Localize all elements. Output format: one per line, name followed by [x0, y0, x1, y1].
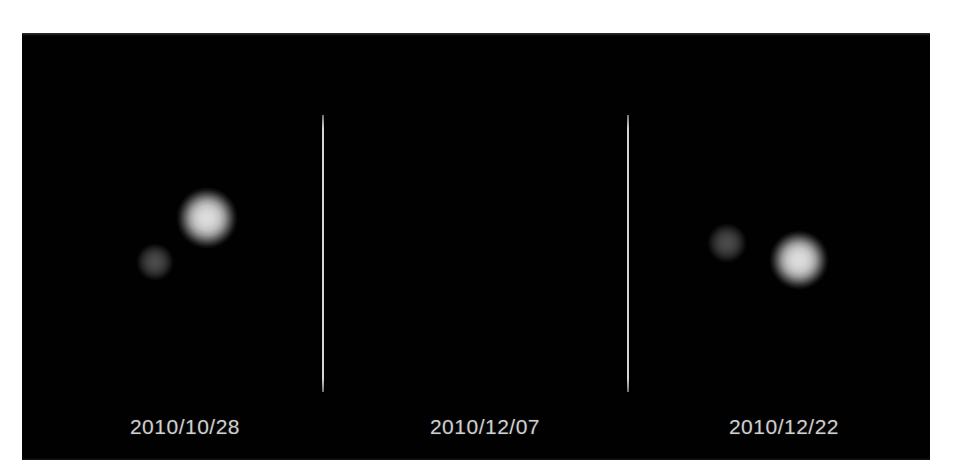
sub-panel-2: 2010/12/07 [324, 33, 627, 460]
charon-blob-panel-1 [136, 243, 174, 281]
panel-2-date-label: 2010/12/07 [335, 415, 635, 439]
figure-root: 2010/10/28 2010/12/07 2010/12/22 [0, 0, 955, 476]
panel-divider-2 [627, 115, 629, 392]
panel-3-date-label: 2010/12/22 [634, 415, 930, 439]
panel-divider-1 [322, 115, 324, 392]
sky-image-plate: 2010/10/28 2010/12/07 2010/12/22 [22, 33, 930, 460]
pluto-blob-panel-1 [176, 187, 238, 249]
sub-panel-3: 2010/12/22 [629, 33, 930, 460]
sub-panel-1: 2010/10/28 [22, 33, 322, 460]
panel-1-date-label: 2010/10/28 [35, 415, 335, 439]
